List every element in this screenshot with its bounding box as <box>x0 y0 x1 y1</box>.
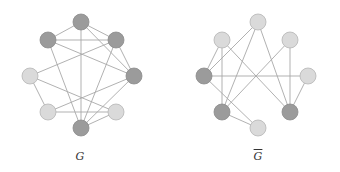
graph-node-ur <box>108 32 124 48</box>
graph-label-g: G <box>76 150 85 163</box>
graph-node-top <box>250 14 266 30</box>
graph-node-ul <box>214 32 230 48</box>
graph-label-g-complement: G <box>254 150 263 163</box>
graph-g-complement <box>196 14 316 136</box>
graph-node-l <box>22 68 38 84</box>
graph-g <box>22 14 142 136</box>
graph-node-r <box>126 68 142 84</box>
graph-node-top <box>73 14 89 30</box>
graph-node-ll <box>40 104 56 120</box>
graph-node-bot <box>250 120 266 136</box>
graph-edge <box>81 22 134 76</box>
graph-node-l <box>196 68 212 84</box>
graph-edge <box>81 76 134 128</box>
graph-node-ll <box>214 104 230 120</box>
graph-node-lr <box>108 104 124 120</box>
graph-node-lr <box>282 104 298 120</box>
graph-diagram-canvas <box>0 0 340 172</box>
graph-node-r <box>300 68 316 84</box>
graph-node-bot <box>73 120 89 136</box>
graph-edge <box>204 76 258 128</box>
graph-node-ur <box>282 32 298 48</box>
graph-node-ul <box>40 32 56 48</box>
